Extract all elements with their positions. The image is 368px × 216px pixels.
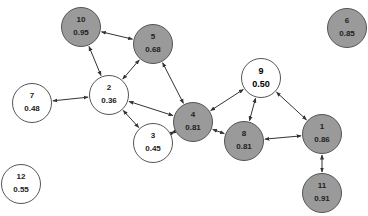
edge-5-4 — [163, 63, 184, 104]
node-label: 1 — [320, 122, 324, 132]
node-label: 4 — [191, 110, 195, 120]
node-11: 110.91 — [302, 173, 342, 213]
node-label: 7 — [30, 91, 34, 101]
node-value: 0.81 — [236, 141, 252, 153]
edge-4-8 — [213, 129, 225, 133]
node-label: 11 — [318, 181, 326, 191]
node-label: 12 — [17, 172, 26, 182]
node-9: 90.50 — [241, 58, 281, 98]
node-2: 20.36 — [89, 75, 129, 115]
node-value: 0.95 — [73, 27, 89, 39]
edge-2-3 — [123, 110, 139, 127]
node-label: 10 — [77, 15, 86, 25]
node-3: 30.45 — [133, 123, 173, 163]
node-value: 0.48 — [24, 103, 40, 115]
node-10: 100.95 — [61, 7, 101, 47]
node-6: 60.85 — [327, 8, 367, 48]
node-8: 80.81 — [224, 121, 264, 161]
edge-2-4 — [129, 101, 173, 115]
node-7: 70.48 — [12, 83, 52, 123]
node-label: 2 — [107, 83, 111, 93]
node-value: 0.50 — [252, 78, 270, 90]
node-12: 120.55 — [1, 164, 41, 204]
node-value: 0.86 — [314, 134, 330, 146]
edge-10-2 — [89, 46, 101, 75]
node-value: 0.45 — [145, 143, 161, 155]
node-value: 0.85 — [339, 28, 355, 40]
node-label: 3 — [151, 131, 155, 141]
node-value: 0.36 — [101, 95, 117, 107]
edge-9-1 — [276, 92, 306, 120]
node-5: 50.68 — [133, 24, 173, 64]
node-4: 40.81 — [173, 102, 213, 142]
node-label: 5 — [151, 32, 155, 42]
node-label: 9 — [258, 66, 263, 76]
node-value: 0.91 — [314, 193, 330, 205]
edge-5-2 — [123, 60, 140, 79]
node-value: 0.68 — [145, 44, 161, 56]
node-label: 8 — [242, 129, 246, 139]
node-value: 0.55 — [13, 184, 29, 196]
network-diagram: 10.86 20.36 30.45 40.81 50.68 60.85 70.4… — [0, 0, 368, 216]
edge-3-4 — [172, 132, 175, 133]
node-1: 10.86 — [302, 114, 342, 154]
edge-8-1 — [265, 136, 301, 139]
edge-4-9 — [211, 89, 244, 110]
edge-2-7 — [53, 97, 88, 101]
node-label: 6 — [345, 16, 349, 26]
edge-10-5 — [101, 32, 132, 39]
node-value: 0.81 — [185, 122, 201, 134]
edge-9-8 — [249, 98, 255, 120]
